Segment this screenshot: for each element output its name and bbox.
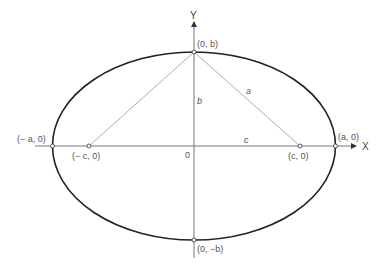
point-left-vertex-marker xyxy=(51,144,55,148)
label-right-focus: (c, 0) xyxy=(288,151,309,161)
label-segment-a: a xyxy=(246,86,251,96)
label-top-point: (0, b) xyxy=(197,39,218,49)
point-top-marker xyxy=(192,50,196,54)
line-left-focus-to-top xyxy=(89,52,194,146)
ellipse-diagram: Y X 0 (0, b) (0, −b) (− a, 0) (a, 0) (− … xyxy=(0,0,384,274)
label-segment-b: b xyxy=(197,96,202,106)
point-right-vertex-marker xyxy=(334,144,338,148)
label-left-focus: (− c, 0) xyxy=(72,151,100,161)
label-right-vertex: (a, 0) xyxy=(338,132,359,142)
label-bottom-point: (0, −b) xyxy=(197,244,223,254)
point-left-focus-marker xyxy=(87,144,91,148)
label-segment-c: c xyxy=(244,135,249,145)
point-bottom-marker xyxy=(192,238,196,242)
origin-label: 0 xyxy=(185,150,190,160)
point-right-focus-marker xyxy=(298,144,302,148)
x-axis-label: X xyxy=(362,141,369,152)
y-axis-label: Y xyxy=(190,10,197,21)
line-right-focus-to-top xyxy=(194,52,300,146)
label-left-vertex: (− a, 0) xyxy=(17,134,46,144)
